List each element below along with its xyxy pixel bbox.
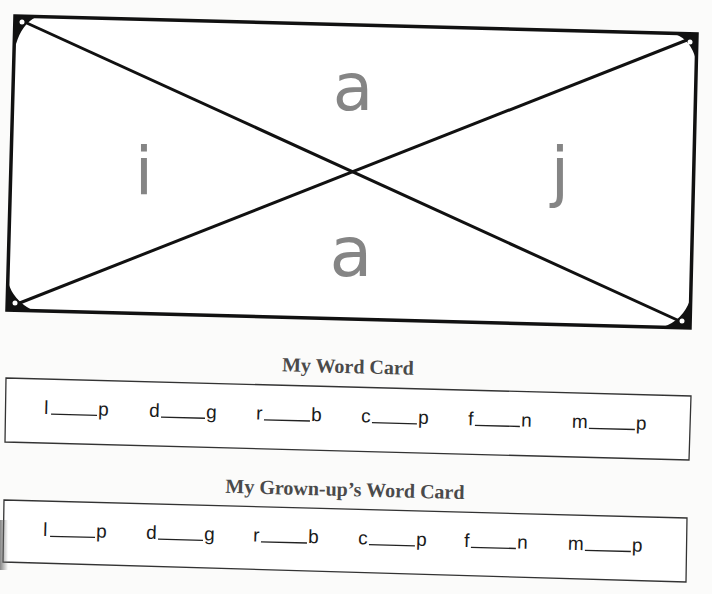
- svg-text:d: d: [146, 522, 157, 543]
- svg-text:m: m: [572, 411, 588, 432]
- my-word-card-title: My Word Card: [282, 353, 414, 379]
- word-item: m p: [572, 411, 647, 434]
- letter-left: i: [135, 133, 153, 210]
- scan-shadow: [0, 520, 8, 570]
- word-item: m p: [568, 533, 643, 556]
- letter-top: a: [333, 49, 373, 126]
- svg-text:d: d: [149, 400, 160, 421]
- grownup-word-card-box: [3, 500, 687, 582]
- svg-text:l: l: [44, 397, 49, 418]
- word-item: l p: [44, 397, 109, 420]
- letter-sort-card: a a i j: [0, 0, 712, 340]
- word-item: c p: [358, 527, 427, 550]
- svg-text:l: l: [43, 519, 48, 540]
- corner-hole-icon: [13, 301, 18, 306]
- corner-hole-icon: [20, 20, 25, 25]
- svg-text:n: n: [521, 410, 532, 431]
- svg-text:p: p: [416, 529, 427, 550]
- svg-text:c: c: [358, 527, 368, 548]
- svg-text:g: g: [206, 401, 217, 422]
- word-item: r b: [256, 403, 322, 426]
- svg-text:n: n: [517, 532, 528, 553]
- svg-text:p: p: [98, 398, 109, 419]
- corner-hole-icon: [680, 319, 685, 324]
- word-item: f n: [464, 530, 528, 553]
- word-item: f n: [468, 408, 532, 431]
- letter-bottom: a: [330, 211, 373, 293]
- svg-text:g: g: [204, 523, 215, 544]
- word-item: d g: [149, 400, 217, 423]
- svg-text:p: p: [632, 535, 643, 556]
- svg-text:b: b: [311, 404, 322, 425]
- word-item: r b: [253, 525, 319, 548]
- letter-right: j: [549, 133, 569, 210]
- svg-text:r: r: [253, 525, 261, 546]
- my-word-card-words: l p d g r b c p f n: [44, 397, 647, 434]
- svg-text:m: m: [568, 533, 584, 554]
- word-item: d g: [146, 522, 215, 545]
- corner-hole-icon: [688, 40, 693, 45]
- svg-text:f: f: [464, 530, 471, 551]
- my-word-card-box: [5, 378, 691, 460]
- svg-text:f: f: [468, 408, 475, 429]
- word-item: l p: [43, 519, 107, 542]
- grownup-word-card-title: My Grown-up’s Word Card: [225, 475, 465, 504]
- svg-text:c: c: [361, 405, 371, 426]
- svg-text:r: r: [256, 403, 264, 424]
- worksheet-page: a a i j My Word Card l p d g r b: [0, 0, 712, 594]
- word-item: c p: [361, 405, 429, 428]
- svg-text:p: p: [636, 413, 647, 434]
- svg-text:p: p: [96, 520, 107, 541]
- grownup-word-card-words: l p d g r b c p f n: [43, 519, 643, 556]
- svg-text:b: b: [308, 526, 319, 547]
- svg-text:p: p: [418, 407, 429, 428]
